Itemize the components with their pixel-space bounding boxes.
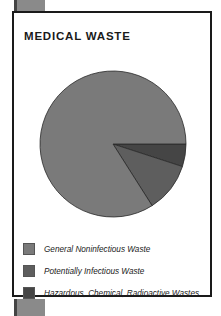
legend-label: General Noninfectious Waste	[44, 245, 150, 254]
chart-title: MEDICAL WASTE	[24, 30, 131, 42]
legend-swatch-general	[23, 243, 35, 255]
pie-chart	[38, 69, 188, 219]
legend-swatch-hazardous	[23, 287, 35, 299]
legend-item-infectious: Potentially Infectious Waste	[23, 260, 199, 282]
legend-swatch-infectious	[23, 265, 35, 277]
legend-label: Potentially Infectious Waste	[44, 267, 144, 276]
chart-card: MEDICAL WASTE General Noninfectious Wast…	[12, 11, 212, 297]
legend-item-general: General Noninfectious Waste	[23, 238, 199, 260]
legend-item-hazardous: Hazardous, Chemical, Radioactive Wastes	[23, 282, 199, 304]
pie-slices	[40, 71, 186, 217]
legend: General Noninfectious Waste Potentially …	[23, 238, 199, 304]
legend-label: Hazardous, Chemical, Radioactive Wastes	[44, 289, 199, 298]
